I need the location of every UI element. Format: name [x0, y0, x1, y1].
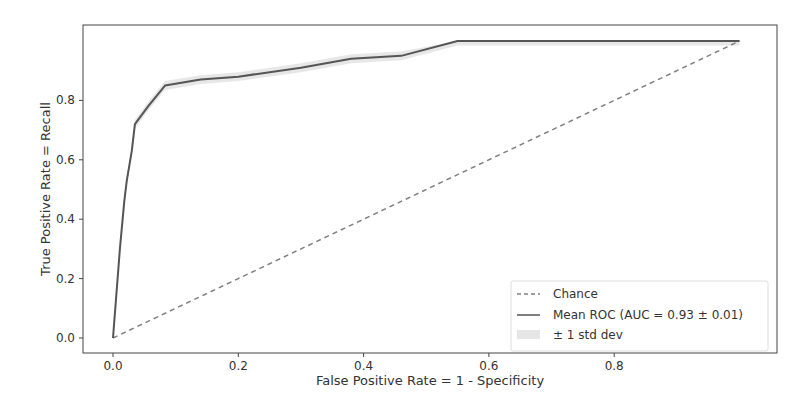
legend-band-swatch-icon: [517, 330, 540, 339]
y-tick-label: 0.8: [56, 93, 75, 107]
x-tick-label: 0.8: [605, 359, 624, 373]
x-tick-label: 0.2: [229, 359, 248, 373]
x-axis-ticks: 0.00.20.40.60.8: [103, 353, 623, 373]
y-tick-label: 0.6: [56, 153, 75, 167]
x-axis-label: False Positive Rate = 1 - Specificity: [316, 373, 545, 388]
y-axis-label: True Positive Rate = Recall: [38, 102, 53, 277]
y-axis-ticks: 0.00.20.40.60.8: [56, 93, 83, 345]
x-tick-label: 0.4: [354, 359, 373, 373]
legend-item-std-dev: ± 1 std dev: [553, 328, 623, 342]
y-tick-label: 0.2: [56, 272, 75, 286]
legend-item-mean-roc: Mean ROC (AUC = 0.93 ± 0.01): [553, 308, 743, 322]
y-tick-label: 0.4: [56, 212, 75, 226]
roc-chart: 0.00.20.40.60.8 0.00.20.40.60.8 False Po…: [0, 0, 806, 415]
x-tick-label: 0.6: [479, 359, 498, 373]
legend-item-chance: Chance: [553, 287, 598, 301]
y-tick-label: 0.0: [56, 331, 75, 345]
legend: Chance Mean ROC (AUC = 0.93 ± 0.01) ± 1 …: [511, 281, 768, 351]
x-tick-label: 0.0: [103, 359, 122, 373]
